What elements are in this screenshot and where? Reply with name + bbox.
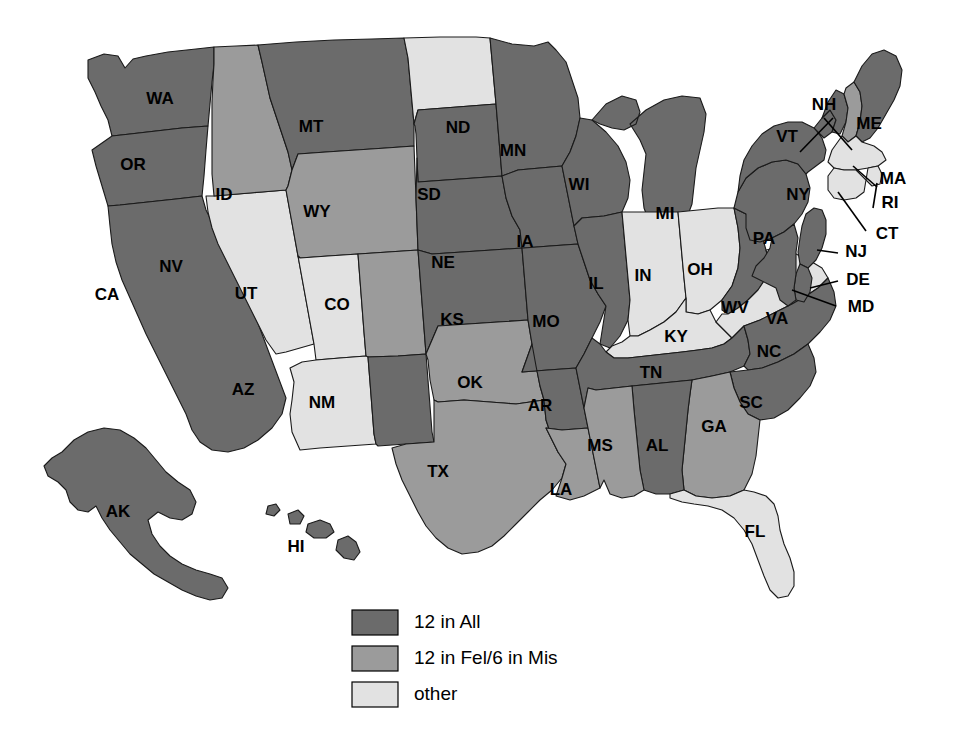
- state-FL[interactable]: [670, 490, 794, 598]
- label-AR: AR: [528, 396, 553, 415]
- legend-label-2: other: [414, 683, 458, 704]
- label-ND: ND: [446, 118, 471, 137]
- label-NE: NE: [431, 253, 455, 272]
- label-PA: PA: [753, 229, 775, 248]
- state-CO[interactable]: [358, 250, 426, 357]
- state-NJ[interactable]: [798, 208, 826, 268]
- label-IL: IL: [588, 274, 603, 293]
- state-MA[interactable]: [828, 136, 886, 170]
- label-IN: IN: [635, 266, 652, 285]
- label-ME: ME: [856, 114, 882, 133]
- label-MT: MT: [299, 117, 324, 136]
- label-NV: NV: [159, 257, 183, 276]
- label-TX: TX: [427, 462, 449, 481]
- label-KS: KS: [440, 310, 464, 329]
- label-DE: DE: [846, 270, 870, 289]
- label-MO: MO: [532, 312, 559, 331]
- label-AK: AK: [106, 502, 131, 521]
- leader-line-RI: [873, 183, 877, 208]
- label-MS: MS: [587, 436, 613, 455]
- label-UT: UT: [235, 284, 258, 303]
- label-MD: MD: [848, 297, 874, 316]
- label-WI: WI: [569, 175, 590, 194]
- label-OR: OR: [120, 155, 146, 174]
- label-FL: FL: [745, 522, 766, 541]
- label-SD: SD: [417, 185, 441, 204]
- label-WV: WV: [721, 298, 749, 317]
- label-VA: VA: [766, 309, 788, 328]
- label-OK: OK: [457, 373, 483, 392]
- label-AL: AL: [646, 436, 669, 455]
- legend-label-1: 12 in Fel/6 in Mis: [414, 647, 558, 668]
- label-NJ: NJ: [845, 242, 867, 261]
- state-SD[interactable]: [414, 104, 502, 182]
- label-MI: MI: [656, 204, 675, 223]
- label-HI: HI: [288, 537, 305, 556]
- legend-label-0: 12 in All: [414, 611, 481, 632]
- label-CT: CT: [876, 224, 899, 243]
- label-AZ: AZ: [232, 380, 255, 399]
- legend: 12 in All 12 in Fel/6 in Mis other: [352, 610, 558, 707]
- us-choropleth-svg: WA OR CA NV ID MT WY UT AZ NM CO ND SD N…: [0, 0, 955, 738]
- legend-swatch-1: [352, 646, 398, 671]
- state-HI[interactable]: [266, 504, 360, 560]
- label-MN: MN: [500, 141, 526, 160]
- label-OH: OH: [687, 260, 713, 279]
- label-VT: VT: [776, 127, 798, 146]
- label-GA: GA: [701, 417, 727, 436]
- state-AK[interactable]: [44, 428, 228, 600]
- state-NM[interactable]: [368, 354, 434, 446]
- label-MA: MA: [880, 169, 906, 188]
- label-WY: WY: [303, 202, 331, 221]
- label-KY: KY: [664, 327, 688, 346]
- legend-swatch-0: [352, 610, 398, 635]
- label-NM: NM: [309, 393, 335, 412]
- label-LA: LA: [550, 480, 573, 499]
- state-OR[interactable]: [92, 126, 208, 206]
- label-NH: NH: [812, 95, 837, 114]
- label-SC: SC: [739, 393, 763, 412]
- label-IA: IA: [517, 232, 534, 251]
- label-NC: NC: [757, 342, 782, 361]
- legend-swatch-2: [352, 682, 398, 707]
- label-WA: WA: [146, 89, 173, 108]
- map-figure: WA OR CA NV ID MT WY UT AZ NM CO ND SD N…: [0, 0, 955, 738]
- label-TN: TN: [640, 363, 663, 382]
- label-RI: RI: [882, 193, 899, 212]
- label-NY: NY: [786, 185, 810, 204]
- label-ID: ID: [216, 185, 233, 204]
- label-CA: CA: [95, 285, 120, 304]
- label-CO: CO: [324, 295, 350, 314]
